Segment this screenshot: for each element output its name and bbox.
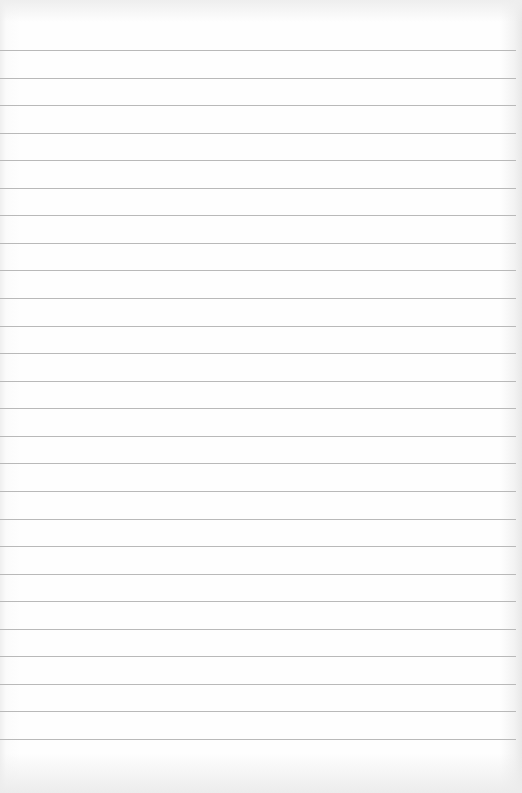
ruled-line	[0, 160, 516, 161]
ruled-line	[0, 519, 516, 520]
ruled-line	[0, 574, 516, 575]
ruled-line	[0, 133, 516, 134]
ruled-line	[0, 491, 516, 492]
paper-top-shading	[0, 0, 522, 22]
ruled-line	[0, 215, 516, 216]
ruled-line	[0, 408, 516, 409]
ruled-line	[0, 684, 516, 685]
ruled-line	[0, 629, 516, 630]
ruled-line	[0, 188, 516, 189]
ruled-line	[0, 326, 516, 327]
ruled-line	[0, 105, 516, 106]
ruled-line	[0, 78, 516, 79]
ruled-line	[0, 270, 516, 271]
ruled-line	[0, 381, 516, 382]
ruled-line	[0, 711, 516, 712]
ruled-line	[0, 298, 516, 299]
ruled-line	[0, 601, 516, 602]
ruled-line	[0, 436, 516, 437]
lined-paper-sheet	[0, 0, 522, 793]
ruled-line	[0, 243, 516, 244]
paper-bottom-shading	[0, 753, 522, 793]
ruled-line	[0, 50, 516, 51]
ruled-line	[0, 463, 516, 464]
ruled-line	[0, 546, 516, 547]
ruled-line	[0, 656, 516, 657]
ruled-line	[0, 353, 516, 354]
ruled-line	[0, 739, 516, 740]
